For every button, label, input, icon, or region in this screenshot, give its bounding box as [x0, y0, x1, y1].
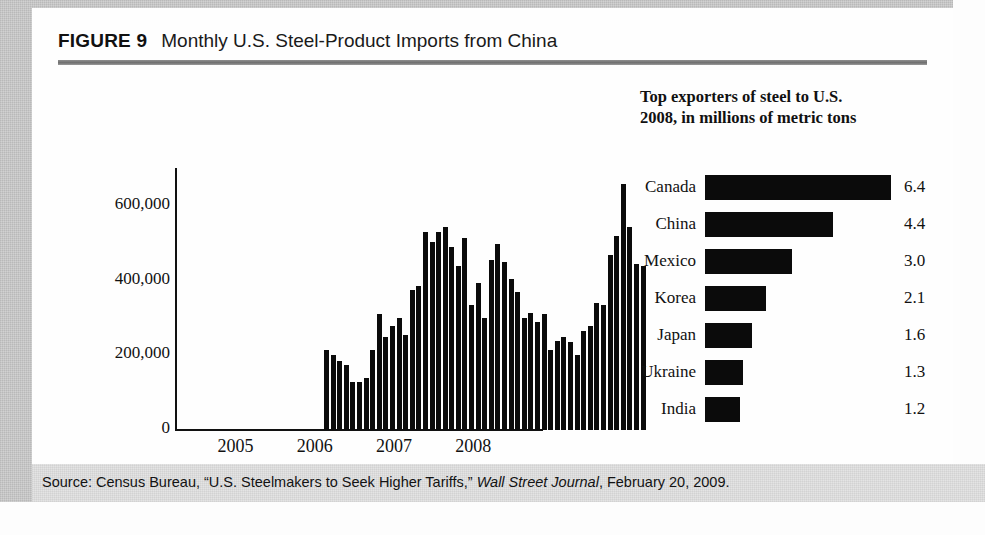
monthly-bar [416, 286, 421, 430]
monthly-bar [364, 378, 369, 430]
monthly-bar [462, 238, 467, 430]
monthly-bar [482, 318, 487, 430]
exporter-bar-fill [705, 286, 766, 311]
monthly-imports-chart: 0200,000400,000600,000 2005200620072008 [32, 8, 592, 464]
monthly-bar [410, 290, 415, 430]
monthly-bar [390, 326, 395, 430]
right-margin [953, 0, 985, 464]
monthly-bar [515, 292, 520, 430]
y-axis-tick-label: 0 [86, 418, 170, 438]
source-note: Source: Census Bureau, “U.S. Steelmakers… [42, 474, 729, 490]
exporter-bar-row: Korea2.1 [592, 281, 953, 315]
exporter-label: Ukraine [592, 362, 705, 382]
exporter-bar-row: China4.4 [592, 207, 953, 241]
exporter-label: Mexico [592, 251, 705, 271]
exporter-bar-fill [705, 360, 743, 385]
monthly-bar [561, 337, 566, 430]
monthly-bars-host [178, 168, 544, 430]
exporter-bar-fill [705, 175, 891, 200]
x-axis-tick-label: 2005 [218, 436, 254, 457]
exporter-bar-track [705, 286, 897, 311]
exporter-bar-list: Canada6.4China4.4Mexico3.0Korea2.1Japan1… [592, 170, 953, 429]
exporter-bar-row: Ukraine1.3 [592, 355, 953, 389]
monthly-bar [568, 342, 573, 430]
x-axis-tick-label: 2006 [297, 436, 333, 457]
exporter-value-label: 6.4 [897, 177, 925, 197]
exporter-value-label: 1.2 [897, 399, 925, 419]
exporter-bar-track [705, 323, 897, 348]
monthly-bar [423, 232, 428, 430]
y-axis-tick-label: 200,000 [86, 343, 170, 363]
x-axis-tick-label: 2008 [455, 436, 491, 457]
monthly-bar [324, 350, 329, 430]
exporter-label: China [592, 214, 705, 234]
monthly-bar [575, 355, 580, 430]
monthly-bar [357, 382, 362, 430]
y-axis-tick-label: 600,000 [86, 194, 170, 214]
monthly-bar [502, 262, 507, 430]
figure-panel: FIGURE 9Monthly U.S. Steel-Product Impor… [32, 8, 953, 464]
exporter-bar-track [705, 397, 897, 422]
monthly-bar [383, 337, 388, 430]
monthly-bar [535, 322, 540, 430]
exporter-label: India [592, 399, 705, 419]
exporter-bar-fill [705, 323, 752, 348]
monthly-bar [344, 365, 349, 430]
exporter-value-label: 2.1 [897, 288, 925, 308]
monthly-bar [522, 318, 527, 430]
monthly-bar [476, 283, 481, 430]
exporter-bar-row: Mexico3.0 [592, 244, 953, 278]
exporter-bar-row: India1.2 [592, 392, 953, 426]
monthly-bar [331, 355, 336, 430]
exporter-bar-fill [705, 397, 740, 422]
source-band: Source: Census Bureau, “U.S. Steelmakers… [32, 464, 985, 502]
monthly-bar [528, 313, 533, 430]
monthly-bar [436, 232, 441, 430]
monthly-bar [337, 361, 342, 430]
monthly-bar [443, 227, 448, 430]
monthly-bar [377, 314, 382, 430]
monthly-bar [370, 350, 375, 430]
monthly-bar [430, 242, 435, 430]
source-suffix: , February 20, 2009. [599, 474, 730, 490]
exporter-label: Canada [592, 177, 705, 197]
source-prefix: Source: Census Bureau, “U.S. Steelmakers… [42, 474, 477, 490]
exporter-value-label: 3.0 [897, 251, 925, 271]
monthly-bar [397, 318, 402, 430]
exporter-bar-track [705, 360, 897, 385]
exporter-bar-track [705, 212, 897, 237]
exporter-label: Japan [592, 325, 705, 345]
monthly-bar [350, 382, 355, 430]
monthly-bar [449, 247, 454, 430]
y-axis-tick-label: 400,000 [86, 269, 170, 289]
monthly-bar [509, 279, 514, 430]
monthly-bar [495, 244, 500, 430]
exporter-label: Korea [592, 288, 705, 308]
top-exporters-heading-line1: Top exporters of steel to U.S. [640, 86, 960, 107]
monthly-bar [489, 260, 494, 430]
x-axis-tick-label: 2007 [376, 436, 412, 457]
monthly-bar [548, 350, 553, 430]
exporter-bar-row: Canada6.4 [592, 170, 953, 204]
monthly-bar [456, 266, 461, 430]
top-exporters-heading: Top exporters of steel to U.S. 2008, in … [640, 86, 960, 128]
bottom-margin [0, 502, 985, 535]
exporter-value-label: 1.3 [897, 362, 925, 382]
top-exporters-chart: Top exporters of steel to U.S. 2008, in … [592, 8, 953, 464]
exporter-bar-row: Japan1.6 [592, 318, 953, 352]
y-axis-line [175, 168, 177, 430]
exporter-bar-fill [705, 249, 792, 274]
exporter-bar-fill [705, 212, 833, 237]
exporter-bar-track [705, 175, 897, 200]
monthly-bar [555, 341, 560, 430]
exporter-value-label: 4.4 [897, 214, 925, 234]
exporter-value-label: 1.6 [897, 325, 925, 345]
source-publication: Wall Street Journal [477, 474, 599, 490]
monthly-bar [403, 335, 408, 430]
monthly-bar [542, 314, 547, 430]
top-exporters-heading-line2: 2008, in millions of metric tons [640, 107, 960, 128]
exporter-bar-track [705, 249, 897, 274]
monthly-bar [469, 305, 474, 430]
monthly-bar [581, 331, 586, 430]
